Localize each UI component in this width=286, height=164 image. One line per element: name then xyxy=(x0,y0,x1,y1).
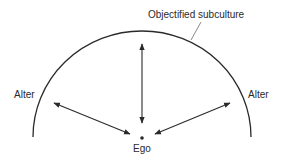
diagram-graphics xyxy=(0,0,286,164)
alter-left-label: Alter xyxy=(14,89,35,101)
alter-right-label: Alter xyxy=(248,89,269,101)
diagram-canvas: Objectified subculture Alter Alter Ego xyxy=(0,0,286,164)
subculture-label: Objectified subculture xyxy=(148,9,244,21)
subculture-leader-line xyxy=(191,22,201,40)
ego-label: Ego xyxy=(133,143,151,155)
arrow-ego-to-alter-right xyxy=(155,103,230,134)
arrow-ego-to-alter-left xyxy=(54,103,130,134)
ego-dot xyxy=(140,136,144,140)
